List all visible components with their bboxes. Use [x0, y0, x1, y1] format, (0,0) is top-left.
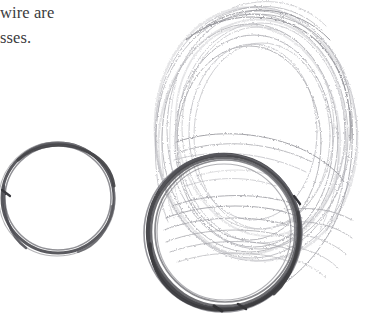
scanned-page: wire are sses. — [0, 0, 373, 314]
wire-coils-illustration — [0, 0, 373, 314]
large-light-wire-coil — [142, 0, 369, 282]
small-wire-coil — [0, 142, 115, 256]
dark-wire-coil — [144, 154, 302, 312]
